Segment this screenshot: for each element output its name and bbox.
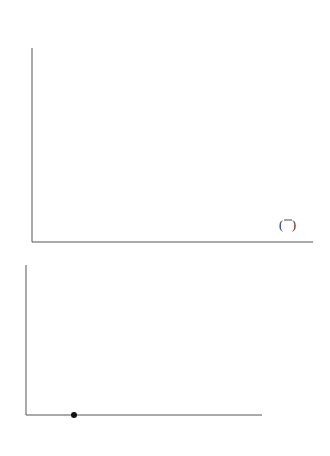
- top-chart: ( ): [0, 0, 313, 242]
- bottom-chart: [26, 265, 262, 418]
- label-half-pow-x: ( ): [279, 218, 296, 232]
- svg-text:(: (: [279, 218, 283, 232]
- svg-text:): ): [292, 218, 296, 232]
- figure: ( ): [0, 0, 330, 456]
- point-1-0: [71, 412, 77, 418]
